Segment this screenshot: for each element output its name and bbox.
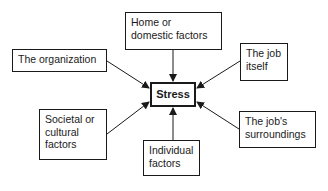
arrow-societal-to-stress [107, 102, 149, 134]
factor-surroundings-line-2: surroundings [245, 128, 310, 141]
factor-organization-line-1: The organization [18, 53, 101, 66]
factor-individual-line-2: factors [149, 157, 194, 170]
factor-individual: Individual factors [143, 140, 200, 176]
arrow-organization-to-stress [107, 61, 149, 88]
factor-home-line-2: domestic factors [131, 29, 216, 42]
arrow-job-itself-to-stress [197, 61, 240, 88]
factor-job-itself: The job itself [240, 43, 288, 81]
factor-surroundings: The job's surroundings [239, 111, 316, 148]
factor-individual-line-1: Individual [149, 144, 194, 157]
factor-societal-line-2: cultural [45, 126, 101, 139]
arrow-surroundings-to-stress [197, 102, 239, 129]
stress-label: Stress [156, 88, 190, 101]
factor-home: Home or domestic factors [125, 12, 222, 50]
factor-societal: Societal or cultural factors [39, 109, 107, 160]
factor-home-line-1: Home or [131, 16, 216, 29]
factor-job-itself-line-1: The job [246, 47, 282, 60]
factor-job-itself-line-2: itself [246, 60, 282, 73]
factor-organization: The organization [12, 49, 107, 72]
stress-node: Stress [150, 82, 196, 107]
factor-surroundings-line-1: The job's [245, 115, 310, 128]
factor-societal-line-3: factors [45, 138, 101, 151]
factor-societal-line-1: Societal or [45, 113, 101, 126]
